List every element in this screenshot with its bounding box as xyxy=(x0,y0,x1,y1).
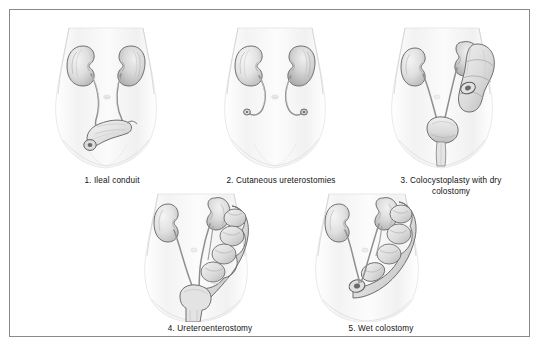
cutaneous-ureterostomies-illustration xyxy=(193,24,369,172)
stoma xyxy=(84,140,96,151)
panel-caption-2: 2. Cutaneous ureterostomies xyxy=(193,176,369,187)
panel-caption-1: 1. Ileal conduit xyxy=(27,176,197,187)
panel-ureteroenterostomy: 4. Ureteroenterostomy xyxy=(120,192,300,337)
navel xyxy=(434,95,440,99)
panel-caption-4: 4. Ureteroenterostomy xyxy=(120,324,300,335)
panel-ileal-conduit: 1. Ileal conduit xyxy=(27,24,197,174)
navel xyxy=(362,248,368,252)
panel-cutaneous-ureterostomies: 2. Cutaneous ureterostomies xyxy=(193,24,369,174)
navel xyxy=(104,95,111,99)
ileal-conduit-illustration xyxy=(27,24,197,172)
panel-colocystoplasty: 3. Colocystoplasty with dry colostomy xyxy=(365,24,537,174)
colocystoplasty-dry-colostomy-illustration xyxy=(365,24,537,172)
urethra xyxy=(436,142,446,166)
panel-wet-colostomy: 5. Wet colostomy xyxy=(295,192,467,337)
bladder xyxy=(427,117,458,143)
ureteroenterostomy-illustration xyxy=(120,192,300,322)
figure-frame: 1. Ileal conduit xyxy=(9,9,530,337)
wet-colostomy-illustration xyxy=(295,192,467,322)
navel xyxy=(272,95,279,99)
navel xyxy=(191,248,197,252)
right-stoma xyxy=(301,109,308,115)
left-stoma xyxy=(244,109,251,115)
panel-caption-5: 5. Wet colostomy xyxy=(295,324,467,335)
